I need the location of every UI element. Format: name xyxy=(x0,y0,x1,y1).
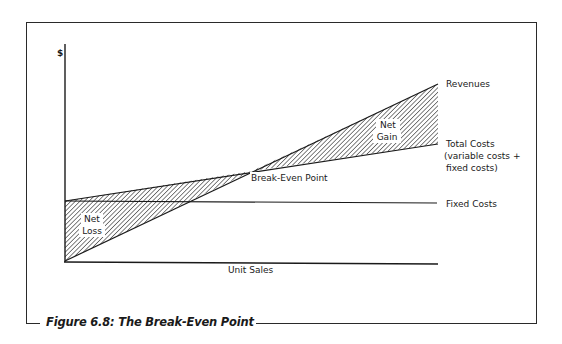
fixed-costs-label: Fixed Costs xyxy=(446,198,497,210)
total-costs-label: Total Costs xyxy=(446,138,495,150)
x-axis-label: Unit Sales xyxy=(228,264,273,276)
y-axis-label: $ xyxy=(57,47,63,59)
net-loss-label-line1: Net xyxy=(81,213,103,225)
net-gain-label-line2: Gain xyxy=(373,131,401,143)
net-gain-label-line1: Net xyxy=(376,119,400,131)
total-costs-note-line1: (variable costs + xyxy=(444,150,520,162)
net-loss-label-line2: Loss xyxy=(79,225,105,237)
revenues-label: Revenues xyxy=(446,78,490,90)
total-costs-note-line2: fixed costs) xyxy=(446,162,498,174)
break-even-label: Break-Even Point xyxy=(250,172,329,184)
